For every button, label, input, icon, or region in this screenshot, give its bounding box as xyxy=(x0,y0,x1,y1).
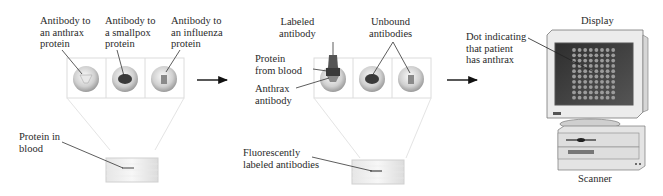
array-dot xyxy=(572,85,576,89)
array-dot xyxy=(600,75,604,79)
array-dot xyxy=(606,96,610,100)
array-dot xyxy=(572,64,576,68)
array-dot xyxy=(589,53,593,57)
array-dot xyxy=(589,80,593,84)
array-dot xyxy=(578,59,582,63)
monitor-screen xyxy=(555,43,633,105)
array-dot xyxy=(578,85,582,89)
array-dot xyxy=(606,91,610,95)
array-dot xyxy=(595,69,599,73)
array-dot xyxy=(595,85,599,89)
array-dot xyxy=(572,91,576,95)
array-dot xyxy=(606,53,610,57)
array-dot xyxy=(583,53,587,57)
array-dot xyxy=(611,96,615,100)
array-dot xyxy=(595,80,599,84)
array-dot xyxy=(578,48,582,52)
array-dot xyxy=(606,48,610,52)
array-dot xyxy=(589,59,593,63)
array-dot xyxy=(572,75,576,79)
array-dot xyxy=(572,80,576,84)
array-dot xyxy=(611,91,615,95)
array-dot xyxy=(583,59,587,63)
panel1-well-strip xyxy=(62,50,184,182)
array-dot xyxy=(583,75,587,79)
array-dot xyxy=(600,59,604,63)
influenza-antibody-shape xyxy=(161,75,167,84)
array-dot xyxy=(600,91,604,95)
array-dot xyxy=(583,96,587,100)
array-dot xyxy=(606,85,610,89)
array-dot xyxy=(600,53,604,57)
labeled-antibody-shape xyxy=(328,55,338,68)
array-dot xyxy=(606,69,610,73)
array-dot xyxy=(600,80,604,84)
computer-display-scanner xyxy=(528,30,648,170)
array-dot xyxy=(611,85,615,89)
array-dot xyxy=(578,96,582,100)
smallpox-antibody-shape xyxy=(118,74,132,84)
array-dot xyxy=(600,85,604,89)
array-dot xyxy=(583,91,587,95)
array-dot xyxy=(583,48,587,52)
array-dot xyxy=(595,91,599,95)
array-dot xyxy=(578,80,582,84)
array-dot xyxy=(578,53,582,57)
array-dot xyxy=(595,48,599,52)
diagram-graphics xyxy=(0,0,663,196)
array-dot xyxy=(611,75,615,79)
array-dot xyxy=(611,69,615,73)
array-dot xyxy=(600,69,604,73)
array-dot xyxy=(572,96,576,100)
array-dot xyxy=(595,96,599,100)
array-dot xyxy=(606,80,610,84)
array-dot xyxy=(611,53,615,57)
array-dot xyxy=(600,64,604,68)
array-dot xyxy=(600,48,604,52)
array-dot xyxy=(583,80,587,84)
array-dot xyxy=(611,80,615,84)
array-dot xyxy=(578,69,582,73)
array-dot xyxy=(595,64,599,68)
array-dot xyxy=(589,48,593,52)
array-dot xyxy=(583,85,587,89)
array-dot xyxy=(606,64,610,68)
array-dot xyxy=(595,59,599,63)
array-dot xyxy=(572,48,576,52)
array-dot xyxy=(578,75,582,79)
array-dot xyxy=(606,59,610,63)
panel2-well-strip xyxy=(296,42,431,184)
array-dot xyxy=(600,96,604,100)
protein-from-blood-shape xyxy=(326,68,340,76)
array-dot xyxy=(611,64,615,68)
array-dot xyxy=(595,75,599,79)
array-dot xyxy=(611,59,615,63)
array-dot xyxy=(589,75,593,79)
array-dot xyxy=(589,85,593,89)
array-dot xyxy=(611,48,615,52)
array-dot xyxy=(583,69,587,73)
array-dot xyxy=(606,75,610,79)
array-dot xyxy=(572,69,576,73)
array-dot xyxy=(595,53,599,57)
array-dot xyxy=(589,96,593,100)
array-dot xyxy=(589,91,593,95)
array-dot xyxy=(589,64,593,68)
array-dot xyxy=(572,53,576,57)
array-dot xyxy=(578,91,582,95)
